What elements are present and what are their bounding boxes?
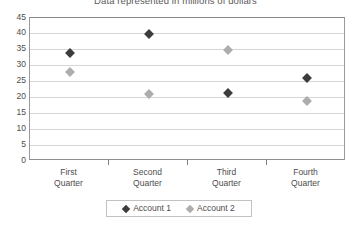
y-axis-tick-label: 35 (0, 44, 26, 53)
legend-item-account-2[interactable]: Account 2 (187, 204, 235, 213)
gridline (30, 113, 344, 114)
y-axis-tick-label: 25 (0, 76, 26, 85)
chart-legend: Account 1 Account 2 (106, 200, 252, 217)
legend-item-account-1[interactable]: Account 1 (123, 204, 171, 213)
y-axis: 454035302520151050 (0, 17, 26, 160)
gridline (30, 145, 344, 146)
x-axis-label-line: Quarter (106, 178, 190, 189)
y-axis-tick-label: 20 (0, 92, 26, 101)
legend-label-account-1: Account 1 (133, 204, 171, 213)
gridline (30, 97, 344, 98)
chart-title: Data represented in millions of dollars (0, 0, 351, 6)
x-axis-tick-label: FirstQuarter (27, 167, 111, 188)
x-axis-tick-label: ThirdQuarter (185, 167, 269, 188)
gridline (30, 49, 344, 50)
y-axis-tick-label: 10 (0, 124, 26, 133)
legend-label-account-2: Account 2 (197, 204, 235, 213)
x-axis-label-line: Third (185, 167, 269, 178)
y-axis-tick-label: 15 (0, 108, 26, 117)
y-axis-tick-label: 5 (0, 140, 26, 149)
diamond-marker-icon (186, 204, 194, 212)
x-axis-label-line: Quarter (185, 178, 269, 189)
x-axis-label-line: First (27, 167, 111, 178)
y-axis-tick-label: 40 (0, 28, 26, 37)
diamond-marker-icon (122, 204, 130, 212)
x-axis-label-line: Quarter (27, 178, 111, 189)
data-point-marker[interactable] (223, 45, 233, 55)
y-axis-tick-label: 45 (0, 13, 26, 22)
chart-container: Data represented in millions of dollars … (0, 0, 351, 226)
x-axis-label-line: Fourth (264, 167, 348, 178)
gridline (30, 81, 344, 82)
plot-area (29, 17, 345, 160)
x-axis-tick (108, 160, 109, 165)
x-axis-tick-label: SecondQuarter (106, 167, 190, 188)
x-axis-label-line: Quarter (264, 178, 348, 189)
x-axis-label-line: Second (106, 167, 190, 178)
x-axis-tick (266, 160, 267, 165)
gridline (30, 65, 344, 66)
gridline (30, 33, 344, 34)
x-axis-tick-label: FourthQuarter (264, 167, 348, 188)
y-axis-tick-label: 30 (0, 60, 26, 69)
data-point-marker[interactable] (65, 67, 75, 77)
gridline (30, 129, 344, 130)
x-axis-tick (187, 160, 188, 165)
data-point-marker[interactable] (144, 29, 154, 39)
y-axis-tick-label: 0 (0, 156, 26, 165)
